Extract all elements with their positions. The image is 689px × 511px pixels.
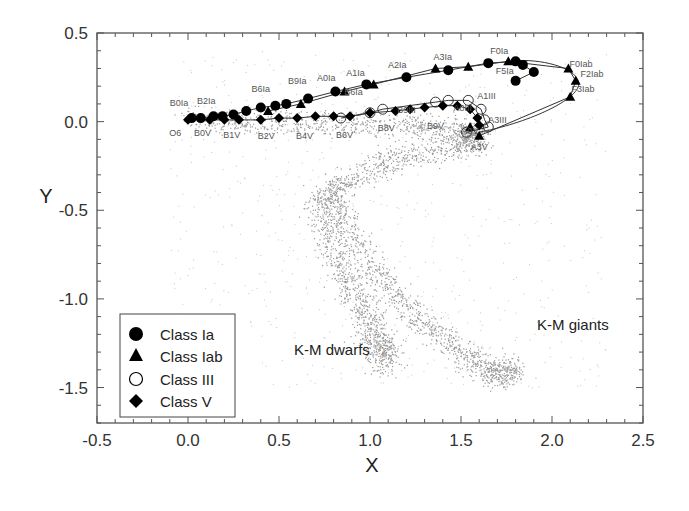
data-point bbox=[438, 101, 448, 111]
data-point bbox=[518, 60, 528, 70]
data-point bbox=[330, 87, 340, 97]
legend-label-v: Class V bbox=[160, 393, 212, 410]
spectral-label: B6Ia bbox=[252, 84, 271, 94]
spectral-label: F5Ia bbox=[496, 66, 514, 76]
spectral-label: O6 bbox=[169, 128, 181, 138]
y-axis-title: Y bbox=[39, 185, 52, 207]
spectral-label: A3V bbox=[471, 142, 488, 152]
legend-label-iii: Class III bbox=[160, 371, 214, 388]
data-point bbox=[443, 65, 453, 75]
data-point bbox=[401, 72, 411, 82]
spectral-label: B4V bbox=[296, 131, 313, 141]
legend-circle-filled-icon bbox=[129, 327, 143, 341]
legend-label-ia: Class Ia bbox=[160, 326, 215, 343]
spectral-label: B9V bbox=[427, 121, 444, 131]
spectral-label: F0Ia bbox=[490, 46, 508, 56]
annotation-km-giants: K-M giants bbox=[537, 316, 609, 333]
data-point bbox=[241, 106, 251, 116]
spectral-label: B2V bbox=[258, 131, 275, 141]
y-tick-label: -1.5 bbox=[59, 379, 88, 398]
x-tick-label: 0.5 bbox=[267, 431, 291, 450]
y-tick-label: -1.0 bbox=[59, 290, 88, 309]
data-point bbox=[270, 101, 280, 111]
x-tick-label: 1.5 bbox=[449, 431, 473, 450]
x-tick-label: 2.5 bbox=[631, 431, 655, 450]
data-point bbox=[336, 113, 346, 123]
spectral-type-labels: B0IaB2IaB6IaB9IaA0IaA1IaA2IaA3IaF0IaF5Ia… bbox=[169, 46, 603, 152]
spectral-label: A0V bbox=[462, 126, 479, 136]
spectral-label: F3Iab bbox=[571, 84, 594, 94]
data-point bbox=[196, 113, 206, 123]
data-point bbox=[483, 58, 493, 68]
y-tick-label: -0.5 bbox=[59, 201, 88, 220]
spectral-label: B9Ia bbox=[288, 76, 307, 86]
legend-label-iab: Class Iab bbox=[160, 348, 223, 365]
data-point bbox=[511, 76, 521, 86]
data-point bbox=[329, 111, 339, 121]
spectral-label: B0V bbox=[194, 128, 211, 138]
data-point bbox=[281, 99, 291, 109]
x-tick-label: 2.0 bbox=[540, 431, 564, 450]
spectral-label: F2Iab bbox=[581, 69, 604, 79]
spectral-label: A3Ia bbox=[434, 52, 453, 62]
spectral-label: B0Ia bbox=[170, 98, 189, 108]
spectral-label: A1Ia bbox=[346, 68, 365, 78]
x-tick-label: 0.0 bbox=[176, 431, 200, 450]
spectral-label: B6Ia bbox=[344, 87, 363, 97]
x-tick-label: 1.0 bbox=[358, 431, 382, 450]
spectral-label: A1III bbox=[477, 91, 496, 101]
spectral-label: B2Ia bbox=[197, 96, 216, 106]
spectral-label: A2Ia bbox=[388, 60, 407, 70]
spectral-label: B6V bbox=[336, 130, 353, 140]
data-point bbox=[256, 115, 266, 125]
spectral-label: B1V bbox=[223, 130, 240, 140]
y-tick-label: 0.0 bbox=[64, 113, 88, 132]
spectral-label: F0Iab bbox=[570, 59, 593, 69]
scatter-chart: B0IaB2IaB6IaB9IaA0IaA1IaA2IaA3IaF0IaF5Ia… bbox=[0, 0, 689, 511]
data-point bbox=[292, 113, 302, 123]
x-tick-label: -0.5 bbox=[82, 431, 111, 450]
annotation-km-dwarfs: K-M dwarfs bbox=[294, 341, 370, 358]
data-point bbox=[310, 111, 320, 121]
x-axis-title: X bbox=[365, 454, 378, 476]
data-point bbox=[303, 94, 313, 104]
spectral-label: A0Ia bbox=[317, 73, 336, 83]
y-tick-label: 0.5 bbox=[64, 24, 88, 43]
data-point bbox=[256, 102, 266, 112]
spectral-label: A0III bbox=[454, 103, 473, 113]
spectral-label: B8V bbox=[378, 123, 395, 133]
legend: Class Ia Class Iab Class III Class V bbox=[120, 314, 235, 417]
spectral-label: B9III bbox=[397, 105, 416, 115]
data-point bbox=[529, 67, 539, 77]
legend-circle-open-icon bbox=[130, 373, 143, 386]
spectral-label: A3III bbox=[488, 115, 507, 125]
